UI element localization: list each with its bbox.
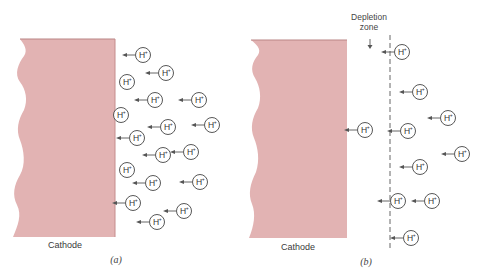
svg-text:+: + <box>135 197 138 203</box>
svg-text:+: + <box>165 149 168 155</box>
svg-text:+: + <box>201 94 204 100</box>
svg-text:+: + <box>129 76 132 82</box>
depletion-label-line1: Depletion <box>351 12 387 22</box>
svg-text:+: + <box>129 164 132 170</box>
hydrogen-ion: H+ <box>441 147 470 162</box>
svg-text:+: + <box>186 205 189 211</box>
hydrogen-ion: H+ <box>114 108 129 123</box>
ions-panel-a: H+H+H+H+H+H+H+H+H+H+H+H+H+H+H+H+H+ <box>112 48 220 230</box>
cathode-label-b: Cathode <box>281 242 315 252</box>
hydrogen-ion: H+ <box>145 66 174 81</box>
svg-text:+: + <box>139 132 142 138</box>
svg-text:+: + <box>157 94 160 100</box>
hydrogen-ion: H+ <box>387 124 416 139</box>
hydrogen-ion: H+ <box>390 231 419 246</box>
svg-text:+: + <box>123 109 126 115</box>
hydrogen-ion: H+ <box>427 111 456 126</box>
svg-text:+: + <box>410 125 413 131</box>
hydrogen-ion: H+ <box>344 123 373 138</box>
ions-panel-b: H+H+H+H+H+H+H+H+H+H+ <box>344 45 470 246</box>
hydrogen-ion: H+ <box>399 160 428 175</box>
svg-text:+: + <box>404 46 407 52</box>
cathode-a <box>13 39 115 237</box>
hydrogen-ion: H+ <box>122 48 151 63</box>
depletion-zone-label: Depletion zone <box>351 12 387 32</box>
svg-text:+: + <box>159 216 162 222</box>
hydrogen-ion: H+ <box>120 75 135 90</box>
svg-text:+: + <box>413 232 416 238</box>
hydrogen-ion: H+ <box>142 148 171 163</box>
svg-text:+: + <box>422 86 425 92</box>
depletion-pointer-arrow <box>368 39 373 49</box>
hydrogen-ion: H+ <box>134 93 163 108</box>
panel-label-b: (b) <box>360 256 372 267</box>
hydrogen-ion: H+ <box>377 194 406 209</box>
hydrogen-ion: H+ <box>399 85 428 100</box>
hydrogen-ion: H+ <box>411 194 440 209</box>
svg-text:+: + <box>464 148 467 154</box>
cathode-b <box>249 40 347 238</box>
svg-text:+: + <box>422 161 425 167</box>
svg-text:+: + <box>168 67 171 73</box>
svg-text:+: + <box>434 195 437 201</box>
hydrogen-ion: H+ <box>178 93 207 108</box>
hydrogen-ion: H+ <box>116 131 145 146</box>
svg-text:+: + <box>400 195 403 201</box>
svg-text:+: + <box>193 146 196 152</box>
svg-text:+: + <box>214 119 217 125</box>
electrode-diagram: H+H+H+H+H+H+H+H+H+H+H+H+H+H+H+H+H+ H+H+H… <box>0 0 483 275</box>
hydrogen-ion: H+ <box>191 118 220 133</box>
hydrogen-ion: H+ <box>381 45 410 60</box>
cathode-label-a: Cathode <box>48 240 82 250</box>
hydrogen-ion: H+ <box>132 176 161 191</box>
hydrogen-ion: H+ <box>147 120 176 135</box>
svg-text:+: + <box>202 176 205 182</box>
hydrogen-ion: H+ <box>136 215 165 230</box>
depletion-label-line2: zone <box>351 22 387 32</box>
hydrogen-ion: H+ <box>120 163 135 178</box>
svg-text:+: + <box>170 121 173 127</box>
hydrogen-ion: H+ <box>179 175 208 190</box>
panel-label-a: (a) <box>110 254 122 265</box>
svg-text:+: + <box>155 177 158 183</box>
hydrogen-ion: H+ <box>112 196 141 211</box>
svg-text:+: + <box>450 112 453 118</box>
svg-text:+: + <box>367 124 370 130</box>
svg-text:+: + <box>145 49 148 55</box>
hydrogen-ion: H+ <box>163 204 192 219</box>
hydrogen-ion: H+ <box>170 145 199 160</box>
